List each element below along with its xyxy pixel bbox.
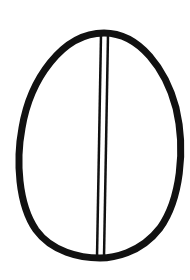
divider-line-left xyxy=(97,35,101,257)
egg-drawing xyxy=(0,0,190,280)
divider-line-right xyxy=(104,35,108,257)
